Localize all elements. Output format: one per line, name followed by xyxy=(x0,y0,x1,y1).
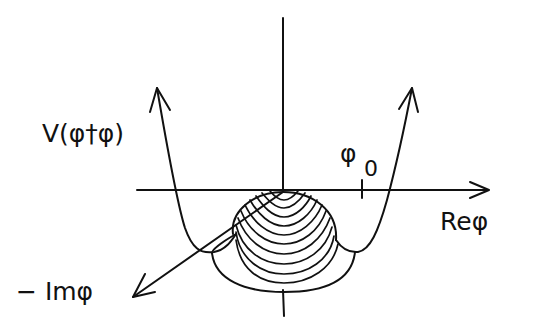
vertical-axis-lower xyxy=(283,290,284,316)
im-phi-label: − Imφ xyxy=(16,277,93,306)
mexican-hat-diagram: V(φ†φ) φ 0 Reφ − Imφ xyxy=(0,0,538,333)
vev-label: φ xyxy=(340,139,357,168)
vev-subscript: 0 xyxy=(364,156,378,181)
potential-label: V(φ†φ) xyxy=(42,119,124,148)
left-potential-branch xyxy=(157,88,236,252)
hump-contours xyxy=(212,191,355,292)
contour-4 xyxy=(238,218,330,254)
contour-5 xyxy=(241,211,326,244)
im-phi-axis xyxy=(133,192,283,297)
left-trough-lip xyxy=(212,234,236,253)
re-phi-label: Reφ xyxy=(440,207,488,236)
